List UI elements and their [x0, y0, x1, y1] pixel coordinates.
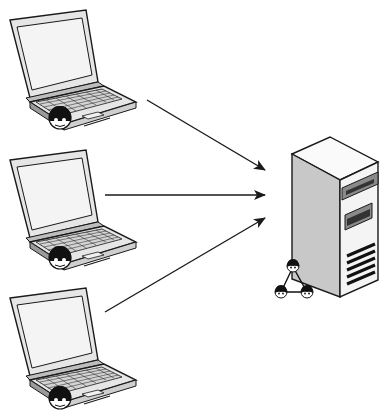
user-icon — [287, 259, 299, 272]
user-icon — [275, 285, 287, 298]
client-laptop-2 — [10, 150, 136, 270]
laptop-icon — [10, 150, 136, 270]
network-diagram — [0, 0, 391, 416]
user-icon — [49, 246, 71, 269]
edge-arrow-client-1 — [147, 100, 265, 170]
user-icon — [49, 106, 71, 129]
server-tower — [292, 137, 378, 297]
user-icon — [301, 285, 313, 298]
client-laptop-1 — [10, 10, 136, 130]
edge-arrow-client-3 — [105, 218, 265, 312]
laptop-icon — [10, 288, 136, 408]
client-laptop-3 — [10, 288, 136, 409]
user-icon — [49, 386, 71, 409]
laptop-icon — [10, 10, 136, 130]
